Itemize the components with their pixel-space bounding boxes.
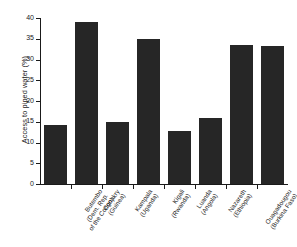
x-axis-labels: Butembo(Dem. Rep.of the Congo)Conakry(Gu… <box>40 188 288 246</box>
bar[interactable] <box>261 46 283 184</box>
y-tick-label: 35 <box>26 34 34 41</box>
x-tick-label: Ouagadougou(Burkina Faso) <box>263 188 297 231</box>
plot-area: 0510152025303540 <box>40 18 288 185</box>
y-tick-label: 40 <box>26 14 34 21</box>
bar-slot <box>106 18 128 184</box>
bar-slot <box>44 18 66 184</box>
bar-slot <box>168 18 190 184</box>
bar[interactable] <box>137 39 159 184</box>
y-tick-label: 0 <box>30 180 34 187</box>
x-tick-label: Nazareth(Ethiopia) <box>226 188 253 219</box>
y-tick-label: 30 <box>26 55 34 62</box>
x-tick-label: Kampala(Uganda) <box>133 188 160 218</box>
bar[interactable] <box>44 125 66 184</box>
y-tick-label: 10 <box>26 138 34 145</box>
bar-slot <box>230 18 252 184</box>
x-tick-label: Kigali(Rwanda) <box>164 188 192 219</box>
bar[interactable] <box>106 122 128 184</box>
bar-slot <box>75 18 97 184</box>
bar[interactable] <box>199 118 221 184</box>
bar[interactable] <box>230 45 252 184</box>
y-tick-label: 25 <box>26 76 34 83</box>
y-tick-label: 20 <box>26 97 34 104</box>
bar-slot <box>137 18 159 184</box>
bar-slot <box>199 18 221 184</box>
bar-series <box>40 18 288 184</box>
y-tick-label: 5 <box>30 159 34 166</box>
y-tick-mark <box>36 184 40 185</box>
bar[interactable] <box>75 22 97 184</box>
bar-slot <box>261 18 283 184</box>
bar[interactable] <box>168 131 190 184</box>
y-tick-label: 15 <box>26 117 34 124</box>
x-tick-label: Luanda(Angola) <box>194 188 220 216</box>
bar-chart: Access to piped water (%) 05101520253035… <box>0 0 297 247</box>
